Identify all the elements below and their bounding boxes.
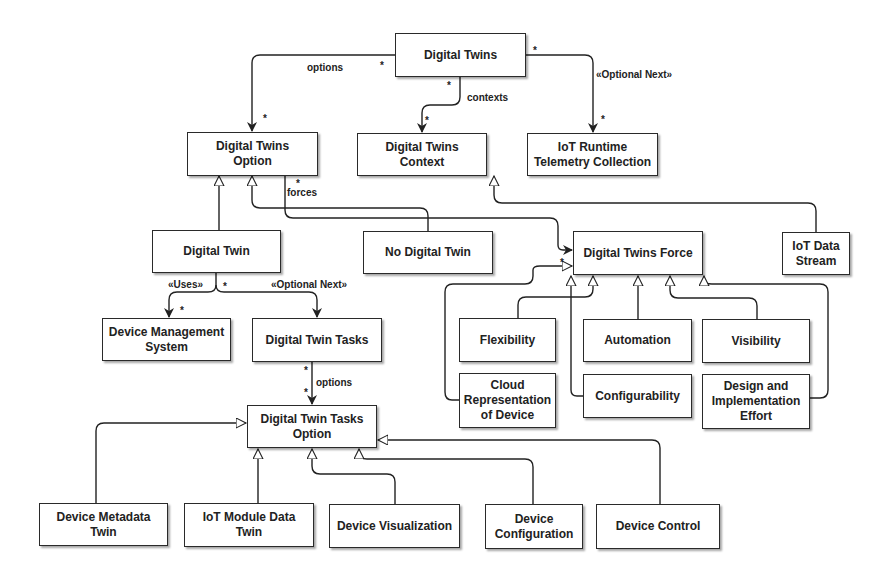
- multiplicity: *: [560, 257, 564, 268]
- node-device-metadata-twin: Device Metadata Twin: [39, 503, 168, 546]
- node-configurability: Configurability: [583, 374, 692, 418]
- edge-label-options-tasks: options: [316, 377, 352, 388]
- node-label: Device Control: [616, 519, 701, 534]
- node-label: Digital Twin Tasks Option: [261, 412, 364, 442]
- node-device-management-system: Device Management System: [102, 318, 231, 361]
- multiplicity: *: [447, 80, 451, 91]
- node-label: Visibility: [731, 334, 780, 349]
- connectors: [0, 0, 885, 583]
- node-device-visualization: Device Visualization: [329, 504, 460, 548]
- node-design-implementation-effort: Design and Implementation Effort: [702, 374, 810, 429]
- multiplicity: *: [425, 115, 429, 126]
- node-label: No Digital Twin: [385, 245, 471, 260]
- node-label: Device Visualization: [337, 519, 452, 534]
- node-label: Device Metadata Twin: [56, 510, 150, 540]
- node-label: Digital Twins: [424, 48, 497, 63]
- node-label: Device Configuration: [495, 512, 574, 542]
- node-label: Device Management System: [109, 325, 224, 355]
- edge-label-options: options: [307, 62, 343, 73]
- node-label: Digital Twins Force: [583, 246, 692, 261]
- node-label: Cloud Representation of Device: [464, 378, 551, 423]
- node-label: Digital Twins Context: [385, 140, 458, 170]
- node-automation: Automation: [583, 319, 692, 362]
- node-digital-twins-option: Digital Twins Option: [187, 132, 318, 176]
- multiplicity: *: [533, 45, 537, 56]
- node-label: Digital Twin Tasks: [266, 333, 369, 348]
- node-digital-twin: Digital Twin: [152, 230, 281, 273]
- node-flexibility: Flexibility: [459, 318, 556, 362]
- node-label: IoT Runtime Telemetry Collection: [534, 140, 651, 170]
- node-cloud-representation: Cloud Representation of Device: [459, 373, 556, 428]
- multiplicity: *: [263, 113, 267, 124]
- node-digital-twins: Digital Twins: [395, 33, 526, 77]
- node-digital-twin-tasks-option: Digital Twin Tasks Option: [247, 405, 377, 448]
- node-label: Configurability: [595, 389, 680, 404]
- edge-label-optional-next-tasks: «Optional Next»: [271, 279, 347, 290]
- node-device-control: Device Control: [596, 504, 720, 549]
- node-no-digital-twin: No Digital Twin: [363, 231, 493, 274]
- node-iot-module-data-twin: IoT Module Data Twin: [184, 503, 314, 547]
- multiplicity: *: [296, 178, 300, 189]
- node-iot-runtime-telemetry: IoT Runtime Telemetry Collection: [527, 133, 658, 176]
- multiplicity: *: [380, 60, 384, 71]
- node-label: Digital Twin: [183, 244, 249, 259]
- multiplicity: *: [223, 281, 227, 292]
- node-label: IoT Data Stream: [792, 239, 839, 269]
- multiplicity: *: [601, 114, 605, 125]
- node-visibility: Visibility: [702, 319, 810, 363]
- node-label: Automation: [604, 333, 671, 348]
- node-label: IoT Module Data Twin: [203, 510, 296, 540]
- multiplicity: *: [304, 365, 308, 376]
- node-digital-twins-context: Digital Twins Context: [357, 133, 487, 176]
- edge-label-optional-next: «Optional Next»: [596, 69, 672, 80]
- node-digital-twin-tasks: Digital Twin Tasks: [252, 318, 382, 362]
- node-iot-data-stream: IoT Data Stream: [782, 232, 850, 275]
- edge-label-contexts: contexts: [467, 92, 508, 103]
- edge-label-forces: forces: [287, 187, 317, 198]
- multiplicity: *: [304, 387, 308, 398]
- node-label: Flexibility: [480, 333, 535, 348]
- node-label: Digital Twins Option: [216, 139, 289, 169]
- node-device-configuration: Device Configuration: [485, 504, 583, 549]
- edge-label-uses: «Uses»: [168, 279, 203, 290]
- multiplicity: *: [180, 305, 184, 316]
- node-label: Design and Implementation Effort: [712, 379, 801, 424]
- node-digital-twins-force: Digital Twins Force: [573, 231, 703, 275]
- uml-diagram: Digital Twins Digital Twins Option Digit…: [0, 0, 885, 583]
